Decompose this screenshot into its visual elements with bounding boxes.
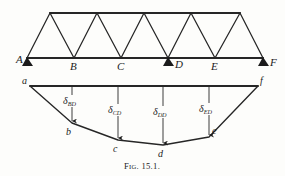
ordinate-subscript-ED: ED <box>203 108 213 115</box>
deflection-node-label-b: b <box>66 126 71 137</box>
deflection-node-label-e: e <box>212 125 217 136</box>
truss-diagonal-E-top5 <box>215 13 240 58</box>
ordinate-subscript-DD: DD <box>157 111 167 118</box>
truss-diagonal-top3-D <box>144 13 168 58</box>
truss-diagonal-A-top1 <box>27 13 50 58</box>
figure-container: A B C D E F <box>0 0 285 176</box>
truss-diagram: A B C D E F <box>15 13 277 72</box>
ordinate-subscript-CD: CD <box>113 109 122 116</box>
truss-diagonal-top5-F <box>240 13 263 58</box>
deflection-diagram: δBD δCD δDD δED a b c d e f <box>22 75 264 159</box>
deflection-ordinates <box>72 87 209 143</box>
deflection-node-label-f: f <box>260 75 264 86</box>
truss-node-label-F: F <box>269 56 277 68</box>
truss-diagonal-top2-C <box>97 13 121 58</box>
figure-canvas: A B C D E F <box>0 0 285 176</box>
truss-web-members <box>27 13 263 58</box>
ordinate-subscript-BD: BD <box>68 100 77 107</box>
truss-diagonal-B-top2 <box>74 13 97 58</box>
deflection-node-label-a: a <box>22 75 27 86</box>
truss-node-label-D: D <box>174 58 183 70</box>
truss-diagonal-top4-E <box>191 13 215 58</box>
figure-caption-smallcaps: IG <box>129 163 137 170</box>
ordinate-label-backdrops <box>62 95 219 118</box>
deflection-node-label-d: d <box>158 148 164 159</box>
truss-node-label-C: C <box>117 60 125 72</box>
figure-caption-suffix: . 15.1. <box>137 161 161 171</box>
truss-diagonal-top1-B <box>50 13 74 58</box>
deflection-node-label-c: c <box>113 143 118 154</box>
figure-caption: FIG. 15.1. <box>124 161 160 171</box>
truss-node-label-E: E <box>210 60 218 72</box>
truss-node-label-A: A <box>15 53 23 65</box>
truss-diagonal-D-top4 <box>168 13 191 58</box>
truss-node-label-B: B <box>70 60 77 72</box>
truss-diagonal-C-top3 <box>121 13 144 58</box>
